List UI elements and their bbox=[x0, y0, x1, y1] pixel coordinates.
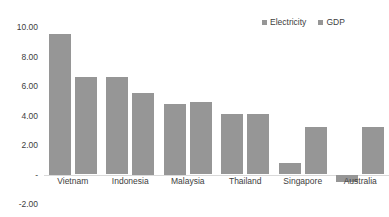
x-axis-category-label: Singapore bbox=[274, 177, 332, 186]
bar-gdp[interactable] bbox=[190, 102, 212, 174]
bar-group: Australia bbox=[332, 27, 389, 204]
bar-group: Malaysia bbox=[159, 27, 217, 204]
bar-gdp[interactable] bbox=[362, 127, 384, 174]
y-tick-label: 6.00 bbox=[21, 82, 38, 91]
bar-electricity[interactable] bbox=[49, 34, 71, 174]
bar-groups: VietnamIndonesiaMalaysiaThailandSingapor… bbox=[44, 27, 389, 204]
y-tick-label: - bbox=[35, 171, 38, 180]
bar-group: Singapore bbox=[274, 27, 332, 204]
legend-item-electricity[interactable]: Electricity bbox=[262, 18, 306, 27]
y-tick-label: -2.00 bbox=[19, 200, 38, 209]
bar-group: Vietnam bbox=[44, 27, 102, 204]
y-tick-label: 4.00 bbox=[21, 112, 38, 121]
legend-label-electricity: Electricity bbox=[270, 18, 306, 27]
legend-swatch-icon bbox=[318, 20, 323, 25]
bar-electricity[interactable] bbox=[106, 77, 128, 174]
bar-electricity[interactable] bbox=[279, 163, 301, 175]
bar-gdp[interactable] bbox=[305, 127, 327, 174]
chart-legend: Electricity GDP bbox=[262, 18, 345, 27]
bar-electricity[interactable] bbox=[164, 104, 186, 174]
x-axis-category-label: Malaysia bbox=[159, 177, 217, 186]
bar-group: Thailand bbox=[217, 27, 275, 204]
x-axis-category-label: Indonesia bbox=[102, 177, 160, 186]
y-axis: 10.00 8.00 6.00 4.00 2.00 - -2.00 bbox=[0, 0, 44, 217]
x-axis-category-label: Australia bbox=[332, 177, 389, 186]
y-tick-label: 10.00 bbox=[17, 23, 38, 32]
y-tick-label: 2.00 bbox=[21, 141, 38, 150]
x-axis-category-label: Vietnam bbox=[44, 177, 102, 186]
bar-electricity[interactable] bbox=[221, 114, 243, 174]
y-tick-label: 8.00 bbox=[21, 53, 38, 62]
legend-label-gdp: GDP bbox=[326, 18, 344, 27]
bar-gdp[interactable] bbox=[132, 93, 154, 174]
bar-group: Indonesia bbox=[102, 27, 160, 204]
plot-area: VietnamIndonesiaMalaysiaThailandSingapor… bbox=[44, 27, 389, 204]
legend-item-gdp[interactable]: GDP bbox=[318, 18, 344, 27]
bar-gdp[interactable] bbox=[247, 114, 269, 174]
bar-chart: Electricity GDP 10.00 8.00 6.00 4.00 2.0… bbox=[0, 0, 389, 217]
legend-swatch-icon bbox=[262, 20, 267, 25]
bar-gdp[interactable] bbox=[75, 77, 97, 174]
x-axis-category-label: Thailand bbox=[217, 177, 275, 186]
